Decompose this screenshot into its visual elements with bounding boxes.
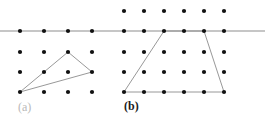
lattice-dot bbox=[202, 29, 206, 33]
lattice-dot bbox=[42, 50, 46, 54]
lattice-dot bbox=[18, 50, 22, 54]
lattice-dot bbox=[122, 9, 126, 13]
lattice-dot bbox=[222, 70, 226, 74]
lattice-dot bbox=[42, 70, 46, 74]
lattice-dot bbox=[18, 70, 22, 74]
lattice-dot bbox=[202, 9, 206, 13]
lattice-dot bbox=[42, 29, 46, 33]
lattice-dot bbox=[66, 29, 70, 33]
lattice-dot bbox=[142, 9, 146, 13]
triangle-shape bbox=[20, 52, 92, 92]
panel-b-caption: (b) bbox=[124, 100, 139, 112]
lattice-dot bbox=[222, 9, 226, 13]
lattice-dot bbox=[182, 29, 186, 33]
lattice-dot bbox=[202, 90, 206, 94]
lattice-dot bbox=[90, 70, 94, 74]
lattice-dot bbox=[90, 29, 94, 33]
lattice-dot bbox=[182, 70, 186, 74]
panel-a-polygon-group bbox=[20, 52, 92, 92]
lattice-dot bbox=[162, 90, 166, 94]
lattice-dot bbox=[66, 50, 70, 54]
lattice-dot bbox=[122, 70, 126, 74]
lattice-dot bbox=[162, 50, 166, 54]
lattice-dot bbox=[142, 50, 146, 54]
lattice-dot bbox=[42, 90, 46, 94]
lattice-dot bbox=[162, 9, 166, 13]
lattice-dot bbox=[66, 70, 70, 74]
lattice-dot bbox=[222, 29, 226, 33]
lattice-dot bbox=[222, 90, 226, 94]
lattice-dot bbox=[122, 50, 126, 54]
lattice-dot bbox=[202, 70, 206, 74]
lattice-dot bbox=[122, 90, 126, 94]
lattice-dot bbox=[142, 70, 146, 74]
lattice-dot bbox=[182, 90, 186, 94]
lattice-dot bbox=[182, 9, 186, 13]
lattice-dot bbox=[66, 90, 70, 94]
panel-b-polygon-group bbox=[124, 31, 224, 92]
lattice-dot bbox=[162, 70, 166, 74]
figure-root: (a) (b) bbox=[0, 0, 265, 122]
lattice-dot bbox=[142, 29, 146, 33]
lattice-dot bbox=[18, 90, 22, 94]
lattice-dot bbox=[142, 90, 146, 94]
lattice-dot bbox=[182, 50, 186, 54]
lattice-dot bbox=[122, 29, 126, 33]
lattice-dot bbox=[162, 29, 166, 33]
lattice-dot bbox=[18, 29, 22, 33]
lattice-dot bbox=[90, 90, 94, 94]
panel-a-caption: (a) bbox=[18, 101, 31, 113]
lattice-dot bbox=[222, 50, 226, 54]
trapezoid-shape bbox=[124, 31, 224, 92]
lattice-dot bbox=[202, 50, 206, 54]
lattice-dot bbox=[90, 50, 94, 54]
